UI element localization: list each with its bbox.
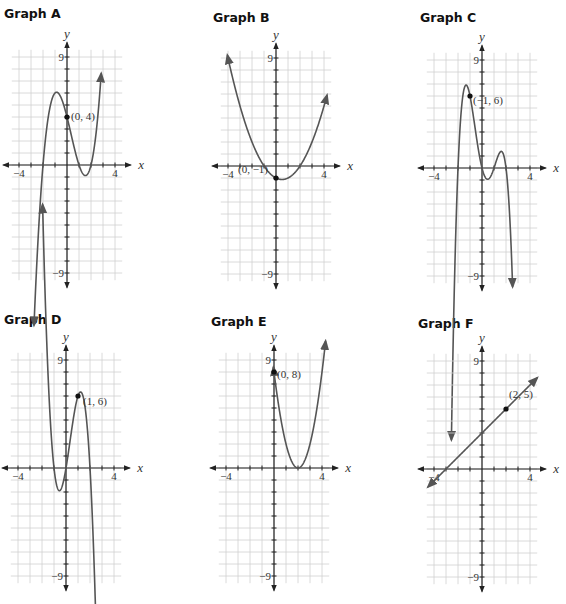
x-tick-label-max: 4 — [111, 470, 117, 482]
graph-c-plot: −449−9xy(−1, 6) — [418, 29, 559, 440]
x-tick-label-min: −4 — [12, 470, 24, 482]
x-axis-label: x — [344, 460, 351, 475]
x-tick-label-max: 4 — [319, 470, 325, 482]
x-axis-label: x — [552, 160, 559, 175]
graph-e-plot: −449−9xy(0, 8) — [210, 329, 351, 591]
x-tick-label-max: 4 — [527, 170, 533, 182]
graph-a-plot: −449−9xy(0, 4) — [3, 26, 144, 326]
labeled-point — [273, 175, 278, 180]
x-tick-label-min: −4 — [220, 470, 232, 482]
graph-d-plot: −449−9xy(1, 6) — [2, 205, 143, 604]
x-tick-label-min: −4 — [428, 170, 440, 182]
x-tick-label-max: 4 — [527, 471, 533, 483]
y-tick-label-min: −9 — [261, 268, 273, 280]
graph-b-plot: −449−9xy(0, −1) — [212, 27, 353, 289]
y-axis-label: y — [269, 329, 277, 344]
point-label: (2, 5) — [509, 388, 533, 401]
y-tick-label-max: 9 — [58, 354, 64, 366]
y-axis-label: y — [62, 26, 70, 41]
graph-f-plot: −449−9xy(2, 5) — [418, 330, 559, 592]
x-tick-label-min: −4 — [13, 167, 25, 179]
labeled-point — [467, 93, 472, 98]
labeled-point — [64, 114, 69, 119]
labeled-point — [271, 369, 276, 374]
point-label: (1, 6) — [83, 395, 107, 408]
x-axis-label: x — [137, 157, 144, 172]
labeled-point — [75, 393, 80, 398]
point-label: (0, 8) — [277, 368, 301, 381]
y-tick-label-min: −9 — [259, 570, 271, 582]
x-tick-label-max: 4 — [112, 167, 118, 179]
y-axis-label: y — [61, 329, 69, 344]
point-label: (0, −1) — [238, 163, 268, 176]
y-tick-label-min: −9 — [467, 571, 479, 583]
x-tick-label-min: −4 — [222, 168, 234, 180]
y-tick-label-min: −9 — [467, 270, 479, 282]
point-label: (0, 4) — [71, 110, 95, 123]
y-tick-label-max: 9 — [474, 54, 480, 66]
y-axis-label: y — [477, 29, 485, 44]
y-tick-label-max: 9 — [268, 52, 274, 64]
y-tick-label-max: 9 — [474, 355, 480, 367]
y-axis-label: y — [271, 27, 279, 42]
y-tick-label-min: −9 — [51, 570, 63, 582]
y-tick-label-min: −9 — [52, 267, 64, 279]
graphs-canvas: −449−9xy(0, 4)−449−9xy(0, −1)−449−9xy(−1… — [0, 0, 566, 604]
y-axis-label: y — [477, 330, 485, 345]
x-tick-label-max: 4 — [321, 168, 327, 180]
point-label: (−1, 6) — [473, 94, 503, 107]
x-axis-label: x — [346, 158, 353, 173]
y-tick-label-max: 9 — [266, 354, 272, 366]
y-tick-label-max: 9 — [59, 51, 65, 63]
labeled-point — [503, 406, 508, 411]
x-axis-label: x — [552, 461, 559, 476]
x-axis-label: x — [136, 460, 143, 475]
